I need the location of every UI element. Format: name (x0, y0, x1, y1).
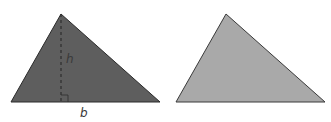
triangle-diagram: h b (0, 0, 331, 122)
right-triangle (176, 14, 325, 102)
left-triangle (11, 14, 160, 102)
height-label: h (66, 52, 74, 66)
base-label: b (80, 106, 88, 120)
